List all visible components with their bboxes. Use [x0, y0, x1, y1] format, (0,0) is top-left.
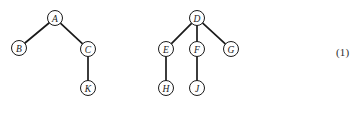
tree-node: H — [159, 81, 174, 96]
node-label: G — [228, 45, 235, 55]
equation-number: (1) — [336, 46, 349, 58]
tree-edge — [171, 23, 192, 44]
nodes-layer: ABCKDEFGHJ — [12, 11, 239, 96]
tree-node: C — [81, 42, 96, 57]
node-label: F — [193, 45, 200, 55]
node-label: C — [85, 45, 92, 55]
tree-node: A — [48, 11, 63, 26]
tree-edge — [24, 22, 49, 43]
tree-node: D — [190, 11, 205, 26]
node-label: H — [162, 84, 171, 94]
tree-edge — [202, 23, 226, 45]
node-label: K — [84, 84, 92, 94]
node-label: B — [16, 44, 22, 54]
tree-node: E — [159, 42, 174, 57]
tree-node: F — [190, 42, 205, 57]
tree-node: J — [190, 81, 205, 96]
tree-diagram-canvas: ABCKDEFGHJ — [0, 0, 359, 113]
tree-node: B — [12, 41, 27, 56]
tree-node: G — [224, 42, 239, 57]
node-label: A — [51, 14, 58, 24]
tree-edge — [60, 23, 83, 44]
node-label: E — [162, 45, 169, 55]
tree-node: K — [81, 81, 96, 96]
tree-diagram-figure: ABCKDEFGHJ (1) — [0, 0, 359, 113]
node-label: D — [193, 14, 201, 24]
